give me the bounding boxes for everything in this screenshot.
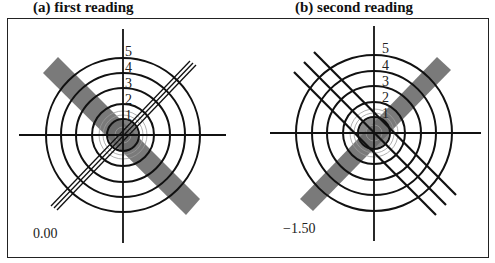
panel-a-value: 0.00 xyxy=(33,226,58,242)
panel-a: 1 2 3 4 5 xyxy=(19,29,226,243)
svg-text:2: 2 xyxy=(382,90,389,105)
svg-text:3: 3 xyxy=(125,76,132,91)
svg-text:4: 4 xyxy=(382,58,389,73)
panel-a-ring-labels: 1 2 3 4 5 xyxy=(125,44,132,123)
svg-text:4: 4 xyxy=(125,60,132,75)
svg-text:5: 5 xyxy=(382,41,389,56)
svg-text:5: 5 xyxy=(125,44,132,59)
svg-text:3: 3 xyxy=(382,74,389,89)
diagram-canvas: 1 2 3 4 5 1 xyxy=(0,0,495,263)
panel-b-ring-labels: 1 2 3 4 5 xyxy=(382,41,389,121)
panel-b-value: −1.50 xyxy=(283,221,315,237)
svg-text:1: 1 xyxy=(382,106,389,121)
svg-text:1: 1 xyxy=(125,108,132,123)
panel-b: 1 2 3 4 5 xyxy=(270,26,481,241)
svg-text:2: 2 xyxy=(125,92,132,107)
